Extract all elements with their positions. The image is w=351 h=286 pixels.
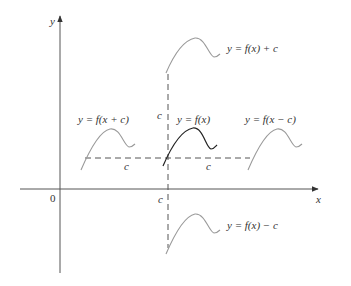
label-f-x-plus-c-arg: y = f(x + c)	[77, 113, 129, 126]
label-f-x-minus-c-arg: y = f(x − c)	[244, 113, 296, 126]
y-axis-label: y	[49, 15, 55, 27]
origin-label: 0	[50, 192, 56, 204]
label-f-x-plus-c: y = f(x) + c	[226, 42, 278, 55]
c-label-horizontal-right: c	[206, 160, 211, 172]
label-f-x: y = f(x)	[176, 113, 210, 126]
x-axis-label: x	[315, 193, 321, 205]
shift-diagram: y x 0 c c c c y = f(x) y = f(x + c) y = …	[0, 0, 351, 286]
curve-f-x-minus-c	[166, 214, 220, 254]
c-label-horizontal-left: c	[124, 160, 129, 172]
curve-f-x-plus-c	[166, 38, 220, 73]
curve-f-x-minus-c-arg	[248, 129, 302, 170]
c-label-vertical-upper: c	[157, 109, 162, 121]
c-label-vertical-lower: c	[158, 193, 163, 205]
label-f-x-minus-c: y = f(x) − c	[226, 219, 278, 232]
